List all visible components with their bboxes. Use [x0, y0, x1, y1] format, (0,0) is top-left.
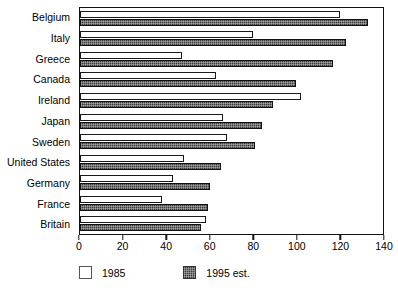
bar-group	[80, 49, 383, 70]
y-axis-category-labels: BelgiumItalyGreeceCanadaIrelandJapanSwed…	[0, 7, 74, 235]
legend-item: 1995 est.	[183, 266, 249, 279]
bar-1985	[80, 196, 162, 203]
bar-1995	[80, 122, 262, 129]
bar-group	[80, 152, 383, 173]
x-axis-tick-label: 120	[332, 241, 350, 252]
bar-group	[80, 90, 383, 111]
y-axis-label: France	[0, 194, 74, 215]
x-axis-tick-label: 100	[288, 241, 306, 252]
y-axis-label: Canada	[0, 69, 74, 90]
legend-label: 1995 est.	[206, 267, 249, 279]
x-axis-tick-label: 20	[117, 241, 129, 252]
bar-group	[80, 111, 383, 132]
bar-1985	[80, 52, 182, 59]
y-axis-label: Ireland	[0, 90, 74, 111]
x-axis-tick-label: 60	[204, 241, 216, 252]
bar-1985	[80, 93, 301, 100]
bar-group	[80, 213, 383, 234]
x-axis: 020406080100120140	[79, 235, 384, 259]
bar-1995	[80, 19, 368, 26]
bar-1995	[80, 142, 255, 149]
x-axis-tick-label: 0	[76, 241, 82, 252]
bar-1985	[80, 175, 173, 182]
legend-item: 1985	[79, 266, 125, 279]
y-axis-label: Germany	[0, 173, 74, 194]
plot-area	[79, 7, 384, 235]
bar-1995	[80, 80, 296, 87]
y-axis-label: United States	[0, 152, 74, 173]
bar-chart: BelgiumItalyGreeceCanadaIrelandJapanSwed…	[0, 0, 398, 295]
bar-1985	[80, 31, 253, 38]
x-axis-tick-label: 80	[247, 241, 259, 252]
bar-groups	[80, 8, 383, 234]
chart-legend: 19851995 est.	[79, 266, 250, 279]
y-axis-label: Greece	[0, 48, 74, 69]
bar-1995	[80, 163, 221, 170]
y-axis-label: Japan	[0, 111, 74, 132]
bar-1995	[80, 183, 210, 190]
bar-group	[80, 172, 383, 193]
bar-1985	[80, 134, 227, 141]
bar-group	[80, 8, 383, 29]
y-axis-label: Belgium	[0, 7, 74, 28]
bar-group	[80, 29, 383, 50]
legend-swatch-icon	[79, 266, 92, 279]
bar-1985	[80, 11, 340, 18]
bar-group	[80, 131, 383, 152]
x-axis-tick-label: 40	[160, 241, 172, 252]
bar-1995	[80, 39, 346, 46]
bar-1985	[80, 72, 216, 79]
bar-group	[80, 193, 383, 214]
bar-1995	[80, 60, 333, 67]
y-axis-label: Sweden	[0, 131, 74, 152]
bar-1985	[80, 114, 223, 121]
bar-1985	[80, 216, 206, 223]
bar-1985	[80, 155, 184, 162]
legend-label: 1985	[102, 267, 125, 279]
y-axis-label: Italy	[0, 28, 74, 49]
bar-group	[80, 70, 383, 91]
bar-1995	[80, 101, 273, 108]
y-axis-label: Britain	[0, 214, 74, 235]
bar-1995	[80, 204, 208, 211]
legend-swatch-icon	[183, 266, 196, 279]
x-axis-tick-label: 140	[375, 241, 393, 252]
bar-1995	[80, 224, 201, 231]
